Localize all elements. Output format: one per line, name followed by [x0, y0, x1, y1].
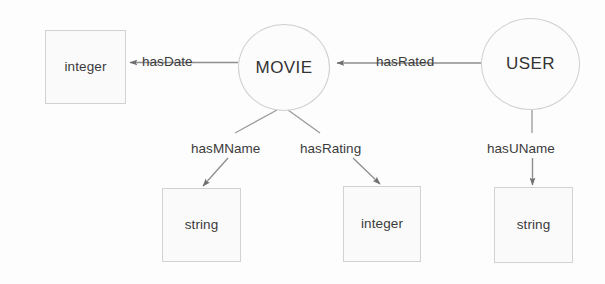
ontology-diagram: integer MOVIE USER string integer string… — [0, 0, 605, 284]
node-integer-rating[interactable]: integer — [343, 186, 421, 262]
edge-line-hasMName-lower — [203, 158, 228, 186]
node-user[interactable]: USER — [481, 18, 580, 110]
edge-label-hasRated[interactable]: hasRated — [376, 54, 434, 69]
node-label: MOVIE — [256, 59, 313, 77]
node-movie[interactable]: MOVIE — [238, 24, 330, 111]
edge-line-hasRating-upper — [288, 110, 320, 133]
edge-label-hasUName[interactable]: hasUName — [487, 141, 555, 156]
edge-line-hasMName-upper — [235, 110, 277, 133]
node-label: integer — [361, 217, 403, 231]
node-integer-date[interactable]: integer — [45, 30, 126, 104]
edge-label-hasMName[interactable]: hasMName — [191, 141, 260, 156]
node-string-uname[interactable]: string — [494, 187, 573, 263]
node-string-mname[interactable]: string — [162, 188, 241, 262]
node-label: USER — [506, 55, 555, 73]
edge-line-hasRating-lower — [353, 158, 380, 184]
edge-label-hasRating[interactable]: hasRating — [300, 141, 361, 156]
node-label: string — [517, 218, 551, 232]
edge-label-hasDate[interactable]: hasDate — [142, 54, 193, 69]
node-label: string — [185, 218, 219, 232]
node-label: integer — [65, 60, 107, 74]
